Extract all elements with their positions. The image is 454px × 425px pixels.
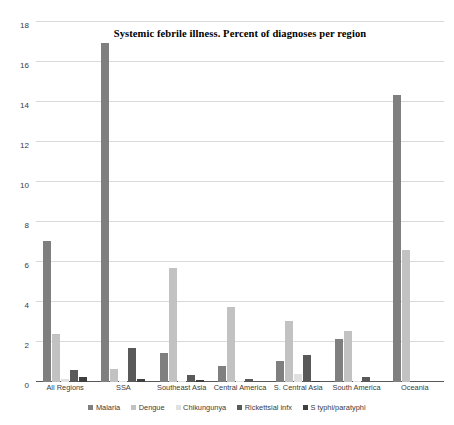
bar <box>79 377 87 382</box>
bar <box>43 241 51 382</box>
legend-swatch-icon <box>176 405 181 410</box>
legend-item[interactable]: S typhi/paratyphi <box>303 404 366 411</box>
x-tick-label: SSA <box>94 384 152 392</box>
bar-group <box>36 22 94 382</box>
bar-chart: Systemic febrile illness. Percent of dia… <box>0 0 454 425</box>
bar <box>303 355 311 382</box>
bar-cluster <box>218 22 262 382</box>
bar-cluster <box>393 22 437 382</box>
plot-area <box>36 22 444 382</box>
bar <box>393 95 401 382</box>
bar <box>196 380 204 382</box>
legend-item[interactable]: Malaria <box>88 404 120 411</box>
bar <box>245 379 253 382</box>
legend-item[interactable]: Dengue <box>131 404 164 411</box>
legend-label: Malaria <box>96 404 120 411</box>
bar-cluster <box>276 22 320 382</box>
chart-legend: MalariaDengueChikungunyaRickettsial infx… <box>0 404 454 411</box>
legend-label: S typhi/paratyphi <box>310 404 365 411</box>
bar <box>119 381 127 382</box>
bar-cluster <box>160 22 204 382</box>
bar-group <box>94 22 152 382</box>
bar-cluster <box>101 22 145 382</box>
bar <box>420 381 428 382</box>
bar <box>160 353 168 382</box>
x-tick-label: All Regions <box>36 384 94 392</box>
bar <box>101 43 109 382</box>
bar-groups <box>36 22 444 382</box>
bar <box>344 331 352 382</box>
x-tick-label: S. Central Asia <box>269 384 327 392</box>
x-tick-label: Central America <box>211 384 269 392</box>
bar-group <box>386 22 444 382</box>
x-tick-label: South America <box>327 384 385 392</box>
legend-item[interactable]: Rickettsial infx <box>237 404 292 411</box>
bar-group <box>327 22 385 382</box>
bar <box>294 374 302 382</box>
bar <box>312 381 320 382</box>
bar <box>236 381 244 382</box>
bar <box>276 361 284 382</box>
x-axis-category-labels: All RegionsSSASoutheast AsiaCentral Amer… <box>36 384 444 392</box>
bar <box>402 250 410 382</box>
x-tick-label: Southeast Asia <box>153 384 211 392</box>
x-tick-label: Oceania <box>386 384 444 392</box>
bar <box>61 379 69 382</box>
bar <box>128 348 136 382</box>
bar <box>362 377 370 382</box>
legend-swatch-icon <box>88 405 93 410</box>
legend-swatch-icon <box>131 405 136 410</box>
bar-group <box>269 22 327 382</box>
bar <box>285 321 293 382</box>
bar <box>110 369 118 382</box>
bar <box>218 366 226 382</box>
bar <box>169 268 177 382</box>
legend-label: Chikungunya <box>183 404 226 411</box>
bar <box>353 381 361 382</box>
legend-swatch-icon <box>237 405 242 410</box>
bar <box>52 334 60 382</box>
bar-group <box>153 22 211 382</box>
bar <box>227 307 235 382</box>
legend-label: Rickettsial infx <box>245 404 292 411</box>
bar <box>187 375 195 382</box>
bar <box>137 379 145 382</box>
legend-item[interactable]: Chikungunya <box>176 404 227 411</box>
bar-cluster <box>43 22 87 382</box>
legend-swatch-icon <box>303 405 308 410</box>
bar <box>178 381 186 382</box>
bar <box>70 370 78 382</box>
y-axis-tick-labels: 024681012141618 <box>0 22 34 382</box>
bar-cluster <box>335 22 379 382</box>
legend-label: Dengue <box>139 404 165 411</box>
bar <box>335 339 343 382</box>
bar-group <box>211 22 269 382</box>
